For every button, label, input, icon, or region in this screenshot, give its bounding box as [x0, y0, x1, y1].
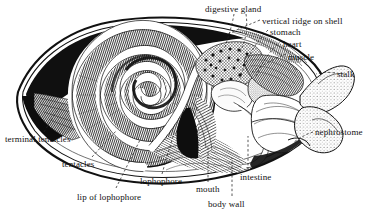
label-heart: heart	[283, 39, 302, 49]
label-terminal-tentacles: terminal tentacles	[5, 134, 71, 144]
label-stalk: stalk	[337, 69, 355, 79]
anatomical-illustration	[0, 0, 374, 215]
label-mouth: mouth	[196, 184, 220, 194]
label-lip-of-lophophore: lip of lophophore	[77, 192, 141, 202]
label-body-wall: body wall	[208, 199, 245, 209]
label-nephrostome: nephrostome	[315, 127, 363, 137]
label-tentacles: tentacles	[62, 159, 94, 169]
label-stomach: stomach	[270, 27, 301, 37]
label-vertical-ridge-on-shell: vertical ridge on shell	[262, 16, 343, 26]
label-muscle: muscle	[288, 52, 314, 62]
label-digestive-gland: digestive gland	[205, 4, 261, 14]
label-intestine: intestine	[240, 172, 271, 182]
diagram-canvas: digestive gland vertical ridge on shell …	[0, 0, 374, 215]
label-lophophore: lophophore	[140, 176, 182, 186]
